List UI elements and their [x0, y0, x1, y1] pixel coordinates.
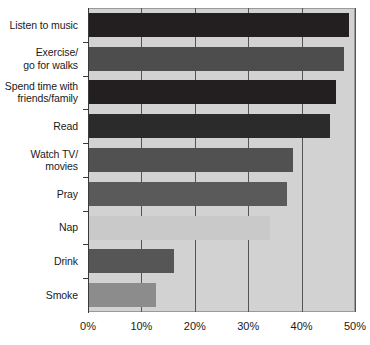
category-label-line: Read	[0, 120, 78, 133]
axis-tick	[83, 109, 88, 110]
category-label-line: Drink	[0, 255, 78, 268]
category-label: Nap	[0, 221, 84, 234]
bar	[88, 80, 336, 104]
category-label: Exercise/go for walks	[0, 46, 84, 71]
x-tick-label: 20%	[184, 320, 206, 332]
category-label-line: Spend time with	[0, 80, 78, 93]
bar	[88, 148, 293, 172]
axis-tick	[83, 278, 88, 279]
category-label: Pray	[0, 188, 84, 201]
category-label: Drink	[0, 255, 84, 268]
x-tick-label: 10%	[130, 320, 152, 332]
category-label-line: go for walks	[0, 59, 78, 72]
category-label-line: Listen to music	[0, 19, 78, 32]
x-tick-label: 30%	[237, 320, 259, 332]
axis-tick	[83, 244, 88, 245]
axis-tick	[83, 42, 88, 43]
category-label: Watch TV/movies	[0, 148, 84, 173]
x-tick-label: 0%	[80, 320, 96, 332]
category-label-line: Watch TV/	[0, 148, 78, 161]
category-label: Read	[0, 120, 84, 133]
axis-tick	[83, 143, 88, 144]
category-label-line: Exercise/	[0, 46, 78, 59]
bar	[88, 47, 344, 71]
category-label-line: Smoke	[0, 289, 78, 302]
bar	[88, 216, 270, 240]
y-axis-line	[88, 8, 89, 313]
axis-tick	[83, 76, 88, 77]
category-label-line: movies	[0, 160, 78, 173]
bar	[88, 283, 156, 307]
axis-tick	[83, 211, 88, 212]
bar	[88, 182, 287, 206]
bars-layer	[88, 8, 355, 312]
x-tick-label: 50%	[344, 320, 366, 332]
category-label-line: Pray	[0, 188, 78, 201]
bar-chart: Listen to musicExercise/go for walksSpen…	[0, 0, 370, 345]
x-tick-label: 40%	[291, 320, 313, 332]
category-axis-labels: Listen to musicExercise/go for walksSpen…	[0, 8, 84, 312]
bar	[88, 13, 349, 37]
category-label: Spend time withfriends/family	[0, 80, 84, 105]
category-label: Smoke	[0, 289, 84, 302]
category-label-line: friends/family	[0, 92, 78, 105]
category-label: Listen to music	[0, 19, 84, 32]
bar	[88, 249, 174, 273]
gridline-50	[355, 8, 356, 312]
x-axis-tick-labels: 0%10%20%30%40%50%	[0, 320, 370, 340]
axis-tick	[83, 177, 88, 178]
category-label-line: Nap	[0, 221, 78, 234]
bar	[88, 114, 330, 138]
